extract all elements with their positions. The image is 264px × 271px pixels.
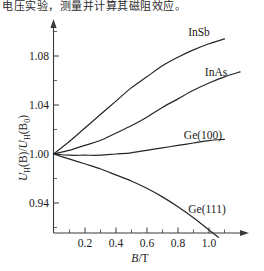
y-axis-arrowhead: [50, 19, 56, 28]
curve-label-inas: InAs: [205, 66, 228, 78]
y-axis: [50, 19, 56, 233]
x-tick-label-1-0: 1.0: [202, 237, 217, 249]
curve-label-ge100: Ge(100): [184, 129, 222, 142]
y-axis-title-close: ): [17, 115, 30, 119]
y-axis-title-open: (B: [17, 122, 30, 134]
x-axis-arrowhead: [240, 230, 249, 236]
curve-inas: [54, 72, 241, 154]
x-tick-label-0-4: 0.4: [109, 237, 124, 249]
x-axis-title: B/T: [131, 252, 148, 264]
x-major-ticks: [85, 228, 209, 234]
x-axis: [54, 230, 250, 236]
x-axis-title-var: B: [131, 252, 138, 264]
curve-ge111: [54, 154, 219, 237]
y-tick-label-1-00: 1.00: [29, 148, 49, 160]
y-axis-title-mid: (B)/: [17, 148, 30, 167]
x-tick-label-0-8: 0.8: [171, 237, 186, 249]
page-top-text: 电压实验，测量并计算其磁阻效应。: [2, 0, 202, 11]
y-tick-label-1-08: 1.08: [29, 50, 49, 62]
x-tick-label-0-2: 0.2: [78, 237, 93, 249]
y-tick-label-0-94: 0.94: [29, 197, 49, 209]
x-tick-label-0-6: 0.6: [140, 237, 155, 249]
curve-label-insb: InSb: [188, 26, 210, 38]
hall-voltage-magnetoresistance-chart: 1.08 1.04 1.00 0.94 0.2 0.4 0.6 0.8 1.0 …: [0, 0, 264, 271]
x-axis-title-unit: /T: [138, 252, 148, 264]
svg-text:B/T: B/T: [131, 252, 148, 264]
curve-label-ge111: Ge(111): [188, 203, 226, 216]
y-tick-label-1-04: 1.04: [29, 99, 49, 111]
figure-container: 电压实验，测量并计算其磁阻效应。: [0, 0, 264, 271]
